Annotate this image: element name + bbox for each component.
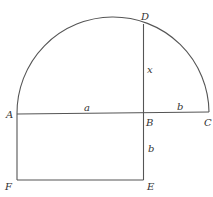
geometry-diagram: A B C D E F a b x b bbox=[0, 0, 213, 197]
segment-label-be: b bbox=[148, 143, 154, 154]
segment-ac bbox=[17, 112, 209, 114]
point-label-b: B bbox=[145, 117, 153, 128]
segment-label-bd: x bbox=[147, 64, 153, 75]
point-label-a: A bbox=[5, 109, 13, 120]
segment-label-bc: b bbox=[177, 101, 183, 112]
segment-label-ab: a bbox=[84, 102, 90, 113]
point-label-c: C bbox=[204, 117, 212, 128]
point-label-e: E bbox=[146, 181, 155, 192]
point-label-d: D bbox=[140, 11, 149, 22]
semicircle-arc bbox=[17, 17, 209, 114]
point-label-f: F bbox=[4, 181, 13, 192]
